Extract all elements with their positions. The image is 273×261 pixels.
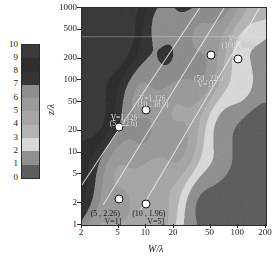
y-axis-tick-500: 500 [0,24,77,33]
colorbar [21,44,40,179]
y-axis-tick-1: 1 [0,220,77,229]
colorbar-tick-8: 8 [14,66,19,75]
x-axis-tick-mark [265,224,266,228]
annotation-label: (5 , 22.6) [110,120,138,128]
colorbar-tick-1: 1 [14,159,19,168]
y-axis-tick-mark [77,7,81,8]
y-axis-tick-5: 5 [0,169,77,178]
contour-plot-area: V=1.126(5 , 22.6)V=1.126(10 , 38.9)(50 ,… [81,7,267,226]
x-axis-tick-mark [173,224,174,228]
x-axis-tick-mark [237,224,238,228]
colorbar-band-4-5 [22,111,39,124]
x-axis-tick-20: 20 [161,228,185,237]
y-axis-tick-mark [77,58,81,59]
colorbar-tick-10: 10 [9,40,18,49]
data-marker-m3[interactable] [206,50,215,59]
data-marker-m6[interactable] [142,199,151,208]
annotation-label: (100 , 196) [222,42,255,50]
y-axis-tick-1000: 1000 [0,3,77,12]
x-axis-tick-50: 50 [198,228,222,237]
y-axis-tick-mark [77,79,81,80]
x-axis-tick-mark [210,224,211,228]
y-axis-tick-10: 10 [0,147,77,156]
y-axis-tick-20: 20 [0,125,77,134]
y-axis-tick-mark [77,130,81,131]
colorbar-tick-5: 5 [14,106,19,115]
x-axis-tick-2: 2 [69,228,93,237]
data-marker-m4[interactable] [234,55,243,64]
annotation-label: V=11 [197,81,214,89]
y-axis-tick-50: 50 [0,97,77,106]
x-axis-tick-mark [81,224,82,228]
y-axis-tick-100: 100 [0,75,77,84]
annotation-m5-v: V=1] [104,217,121,226]
y-axis-tick-2: 2 [0,198,77,207]
x-axis-tick-mark [145,224,146,228]
x-axis-tick-10: 10 [133,228,157,237]
x-axis-tick-100: 100 [225,228,249,237]
y-axis-tick-mark [77,29,81,30]
x-axis-label: W/λ [148,243,163,254]
y-axis-label: z/λ [45,104,56,115]
annotation-label: (10 , 38.9) [137,101,168,109]
annotation-m6-v: V=5] [147,217,164,226]
x-axis-tick-5: 5 [106,228,130,237]
x-axis-tick-200: 200 [253,228,273,237]
y-axis-tick-mark [77,173,81,174]
y-axis-tick-mark [77,152,81,153]
data-marker-m5[interactable] [114,195,123,204]
colorbar-tick-labels: 109876543210 [2,44,18,177]
y-axis-tick-200: 200 [0,53,77,62]
y-axis-tick-mark [77,202,81,203]
y-axis-tick-mark [77,101,81,102]
